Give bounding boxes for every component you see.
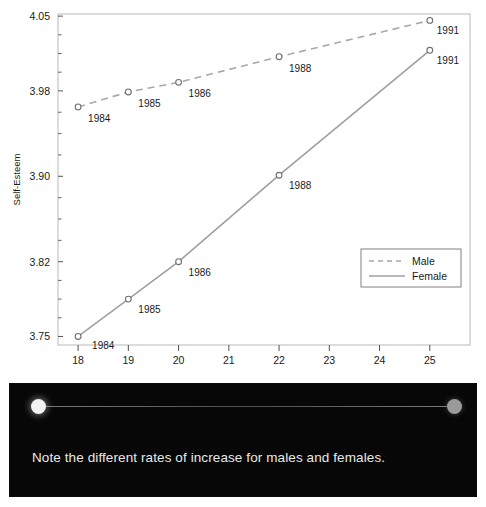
screenshot-root: 3.753.823.903.984.051819202122232425AgeS… xyxy=(0,0,486,507)
legend-label-male: Male xyxy=(412,255,435,267)
end-handle[interactable] xyxy=(447,399,462,414)
point-label-female-1984: 1984 xyxy=(92,340,115,351)
y-tick-label: 3.90 xyxy=(30,170,51,182)
point-label-female-1985: 1985 xyxy=(138,304,161,315)
y-tick-label: 3.82 xyxy=(30,256,51,268)
x-tick-label: 25 xyxy=(424,354,436,366)
point-label-male-1984: 1984 xyxy=(88,113,111,124)
data-point-male-1986[interactable] xyxy=(176,79,182,85)
y-axis-title: Self-Esteem xyxy=(11,154,22,206)
data-point-female-1988[interactable] xyxy=(276,172,282,178)
chart-container: 3.753.823.903.984.051819202122232425AgeS… xyxy=(0,0,486,375)
legend-label-female: Female xyxy=(412,270,447,282)
data-point-female-1986[interactable] xyxy=(176,259,182,265)
media-panel: Note the different rates of increase for… xyxy=(10,384,476,496)
slider-track[interactable] xyxy=(38,406,448,407)
data-point-male-1988[interactable] xyxy=(276,54,282,60)
x-tick-label: 22 xyxy=(273,354,285,366)
x-tick-label: 23 xyxy=(323,354,335,366)
data-point-male-1991[interactable] xyxy=(427,18,433,24)
panel-caption: Note the different rates of increase for… xyxy=(32,450,452,465)
data-point-female-1984[interactable] xyxy=(75,334,81,340)
x-tick-label: 24 xyxy=(374,354,386,366)
point-label-female-1986: 1986 xyxy=(189,267,212,278)
data-point-female-1985[interactable] xyxy=(125,296,131,302)
point-label-male-1991: 1991 xyxy=(437,25,460,36)
point-label-male-1985: 1985 xyxy=(138,98,161,109)
x-tick-label: 20 xyxy=(173,354,185,366)
point-label-male-1988: 1988 xyxy=(289,63,312,74)
y-tick-label: 3.75 xyxy=(30,330,51,342)
x-tick-label: 19 xyxy=(122,354,134,366)
plot-frame xyxy=(58,14,470,345)
x-tick-label: 18 xyxy=(72,354,84,366)
x-tick-label: 21 xyxy=(223,354,235,366)
point-label-female-1988: 1988 xyxy=(289,180,312,191)
point-label-female-1991: 1991 xyxy=(437,55,460,66)
start-handle[interactable] xyxy=(31,399,46,414)
x-axis-title: Age xyxy=(256,372,273,375)
point-label-male-1986: 1986 xyxy=(189,88,212,99)
self-esteem-line-chart: 3.753.823.903.984.051819202122232425AgeS… xyxy=(0,0,486,375)
playback-slider[interactable] xyxy=(10,384,476,430)
data-point-male-1984[interactable] xyxy=(75,104,81,110)
y-tick-label: 3.98 xyxy=(30,85,51,97)
y-tick-label: 4.05 xyxy=(30,10,51,22)
data-point-female-1991[interactable] xyxy=(427,47,433,53)
data-point-male-1985[interactable] xyxy=(125,89,131,95)
